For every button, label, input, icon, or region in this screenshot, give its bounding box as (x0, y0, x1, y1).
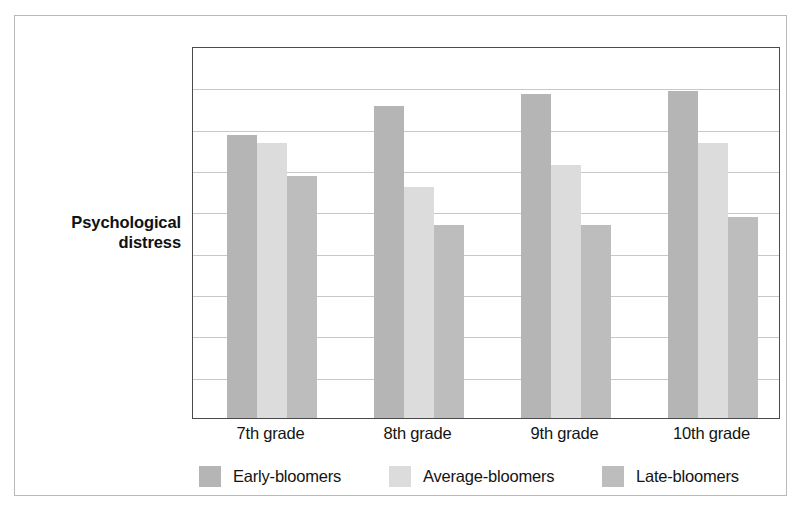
y-axis-label-line-1: Psychological (33, 212, 181, 232)
y-axis-label-line-2: distress (33, 232, 181, 252)
bar-average-7th-grade (257, 143, 287, 418)
bar-late-8th-grade (434, 225, 464, 418)
bar-early-8th-grade (374, 106, 404, 418)
x-axis-label-7th-grade: 7th grade (201, 424, 341, 443)
bar-early-9th-grade (521, 94, 551, 418)
figure-frame: Psychological distress 7th grade8th grad… (14, 15, 787, 496)
plot-area (192, 47, 780, 419)
bar-average-8th-grade (404, 187, 434, 418)
legend-entry-late: Late-bloomers (602, 466, 739, 487)
legend-swatch-early (199, 466, 221, 487)
legend-entry-average: Average-bloomers (389, 466, 554, 487)
bar-late-7th-grade (287, 176, 317, 418)
bar-late-10th-grade (728, 217, 758, 418)
y-axis-label: Psychological distress (33, 212, 181, 252)
bar-average-10th-grade (698, 143, 728, 418)
legend-swatch-late (602, 466, 624, 487)
bar-early-10th-grade (668, 91, 698, 418)
x-axis-label-10th-grade: 10th grade (642, 424, 782, 443)
bars-layer (193, 48, 779, 418)
legend-label-early: Early-bloomers (233, 467, 341, 486)
chart-legend: Early-bloomersAverage-bloomersLate-bloom… (192, 466, 782, 496)
bar-early-7th-grade (227, 135, 257, 418)
legend-label-average: Average-bloomers (423, 467, 554, 486)
bar-average-9th-grade (551, 165, 581, 418)
legend-label-late: Late-bloomers (636, 467, 739, 486)
bar-late-9th-grade (581, 225, 611, 418)
x-axis-tick-labels: 7th grade8th grade9th grade10th grade (192, 424, 780, 452)
x-axis-label-9th-grade: 9th grade (495, 424, 635, 443)
legend-entry-early: Early-bloomers (199, 466, 341, 487)
legend-swatch-average (389, 466, 411, 487)
x-axis-label-8th-grade: 8th grade (348, 424, 488, 443)
